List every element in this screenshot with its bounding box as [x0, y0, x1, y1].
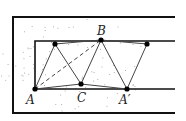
- speckle-dot: [30, 48, 31, 49]
- segment-A-P1: [35, 44, 55, 89]
- speckle-dot: [45, 30, 46, 31]
- speckle-dot: [93, 81, 94, 82]
- speckle-dot: [85, 87, 86, 88]
- speckle-dot: [133, 44, 134, 45]
- speckle-dot: [23, 80, 24, 81]
- speckle-dot: [69, 27, 70, 28]
- speckle-dot: [32, 26, 33, 27]
- point-P2: [144, 41, 149, 46]
- speckle-dot: [33, 64, 34, 65]
- speckle-dot: [61, 104, 62, 105]
- speckle-dot: [46, 58, 47, 59]
- speckle-dot: [104, 84, 105, 85]
- speckle-dot: [3, 54, 4, 55]
- speckle-dot: [53, 26, 54, 27]
- speckle-dot: [60, 94, 61, 95]
- speckle-dot: [62, 111, 63, 112]
- speckle-dot: [28, 48, 29, 49]
- speckle-dot: [44, 85, 45, 86]
- speckle-dot: [45, 74, 46, 75]
- speckle-dot: [118, 26, 119, 27]
- point-C: [78, 81, 83, 86]
- speckle-dot: [55, 104, 56, 105]
- speckle-dot: [9, 76, 10, 77]
- speckle-dot: [24, 67, 25, 68]
- speckle-dot: [5, 80, 6, 81]
- speckle-dot: [120, 42, 121, 43]
- speckle-dot: [44, 27, 45, 28]
- speckle-dot: [100, 49, 101, 50]
- speckle-dot: [54, 49, 55, 50]
- speckle-dot: [43, 64, 44, 65]
- speckle-dot: [78, 106, 79, 107]
- segment-P1-C: [55, 44, 81, 84]
- speckle-dot: [51, 42, 52, 43]
- speckle-dot: [77, 45, 78, 46]
- point-B: [98, 37, 103, 42]
- speckle-dot: [107, 97, 108, 98]
- speckle-dot: [21, 75, 22, 76]
- speckle-dot: [1, 76, 2, 77]
- speckle-dot: [101, 67, 102, 68]
- speckle-dot: [114, 72, 115, 73]
- point-A2: [124, 86, 129, 91]
- speckle-dot: [65, 90, 66, 91]
- speckle-dot: [23, 58, 24, 59]
- speckle-dot: [73, 27, 74, 28]
- speckle-dot: [94, 72, 95, 73]
- speckle-dot: [117, 93, 118, 94]
- speckle-dot: [23, 52, 24, 53]
- speckle-dot: [68, 44, 69, 45]
- speckle-dot: [87, 19, 88, 20]
- segment-C-B: [81, 40, 101, 84]
- speckle-dot: [102, 58, 103, 59]
- speckle-dot: [109, 74, 110, 75]
- speckle-dot: [15, 66, 16, 67]
- segment-B-A2: [101, 40, 127, 89]
- geometry-diagram: ACBA′: [0, 0, 186, 121]
- speckle-dot: [140, 46, 141, 47]
- speckle-dot: [81, 78, 82, 79]
- speckle-dot: [82, 76, 83, 77]
- speckle-dot: [27, 47, 28, 48]
- speckle-dot: [105, 44, 106, 45]
- speckle-dot: [134, 66, 135, 67]
- speckle-dot: [8, 64, 9, 65]
- speckle-dot: [49, 51, 50, 52]
- outer-frame: [13, 17, 175, 113]
- speckle-dot: [57, 28, 58, 29]
- speckle-dot: [29, 56, 30, 57]
- speckle-dot: [23, 76, 24, 77]
- label-C: C: [77, 91, 86, 105]
- speckle-dot: [66, 86, 67, 87]
- speckle-dot: [28, 74, 29, 75]
- label-A: A: [25, 93, 35, 107]
- speckle-dot: [107, 106, 108, 107]
- speckle-dot: [133, 84, 134, 85]
- label-A2: A′: [118, 93, 131, 107]
- speckle-dot: [134, 86, 135, 87]
- speckle-dot: [91, 71, 92, 72]
- speckle-dot: [87, 47, 88, 48]
- speckle-dot: [75, 108, 76, 109]
- speckle-dot: [125, 70, 126, 71]
- label-B: B: [96, 24, 106, 38]
- speckle-dot: [43, 36, 44, 37]
- speckle-dot: [97, 79, 98, 80]
- speckle-dot: [24, 31, 25, 32]
- speckle-dot: [33, 46, 34, 47]
- point-P1: [52, 41, 57, 46]
- point-A: [32, 86, 37, 91]
- speckle-dot: [24, 73, 25, 74]
- speckle-dot: [42, 69, 43, 70]
- segment-A2-P2: [127, 44, 147, 89]
